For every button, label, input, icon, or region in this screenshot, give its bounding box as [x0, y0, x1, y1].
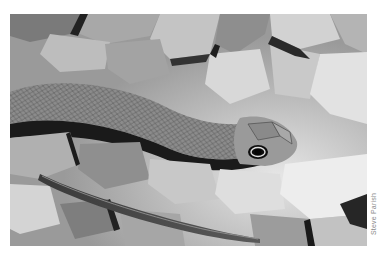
- photo-credit: Steve Parish: [368, 179, 378, 249]
- photo-credit-text: Steve Parish: [370, 193, 377, 235]
- snake-photo: [10, 14, 367, 246]
- snake-photo-image: [10, 14, 367, 246]
